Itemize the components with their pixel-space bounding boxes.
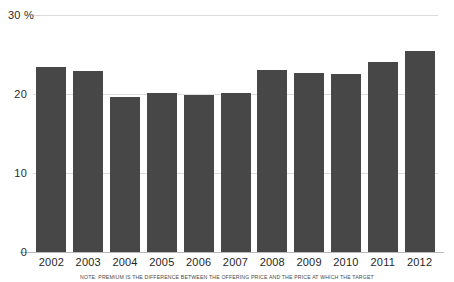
x-axis-label-2007: 2007 <box>217 256 254 268</box>
x-axis-label-2003: 2003 <box>70 256 107 268</box>
y-axis-label-0: 0 <box>0 246 27 258</box>
x-axis-label-2010: 2010 <box>328 256 365 268</box>
bar-slot <box>147 0 177 253</box>
bar-2008[interactable] <box>257 70 287 252</box>
bar-2003[interactable] <box>73 71 103 252</box>
bar-2011[interactable] <box>368 62 398 252</box>
bar-2010[interactable] <box>331 74 361 252</box>
y-axis-label-10: 10 <box>0 167 27 179</box>
bars-layer: 2002200320042005200620072008200920102011… <box>33 0 438 253</box>
bar-slot <box>184 0 214 253</box>
bar-slot <box>294 0 324 253</box>
bar-2006[interactable] <box>184 95 214 252</box>
bar-slot <box>405 0 435 253</box>
bar-slot <box>36 0 66 253</box>
bar-chart-figure: 30 % 20 10 0 200220032004200520062007200… <box>0 0 454 282</box>
x-axis-label-2004: 2004 <box>107 256 144 268</box>
x-axis-label-2009: 2009 <box>291 256 328 268</box>
x-axis-label-2005: 2005 <box>143 256 180 268</box>
chart-note: NOTE: PREMIUM IS THE DIFFERENCE BETWEEN … <box>0 274 454 280</box>
bar-slot <box>221 0 251 253</box>
x-axis-label-2008: 2008 <box>254 256 291 268</box>
bar-slot <box>110 0 140 253</box>
bar-slot <box>368 0 398 253</box>
bar-slot <box>257 0 287 253</box>
bar-2012[interactable] <box>405 51 435 252</box>
x-axis-label-2006: 2006 <box>180 256 217 268</box>
bar-2007[interactable] <box>221 93 251 252</box>
x-axis-label-2002: 2002 <box>33 256 70 268</box>
x-axis-label-2012: 2012 <box>401 256 438 268</box>
bar-2002[interactable] <box>36 67 66 252</box>
x-axis-label-2011: 2011 <box>364 256 401 268</box>
bar-slot <box>331 0 361 253</box>
y-axis-label-20: 20 <box>0 88 27 100</box>
bar-2009[interactable] <box>294 73 324 252</box>
bar-2005[interactable] <box>147 93 177 252</box>
bar-2004[interactable] <box>110 97 140 252</box>
bar-slot <box>73 0 103 253</box>
